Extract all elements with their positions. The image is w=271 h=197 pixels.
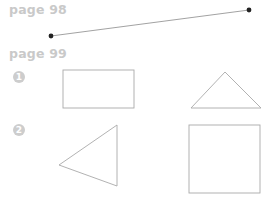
segment-endpoint-dot bbox=[247, 8, 252, 13]
triangle-left-figure bbox=[59, 125, 117, 186]
square-figure bbox=[189, 125, 260, 193]
triangle-up-figure bbox=[191, 72, 261, 108]
rectangle-figure bbox=[63, 70, 134, 108]
line-segment-figure bbox=[49, 8, 252, 39]
figures-canvas bbox=[0, 0, 271, 197]
segment-endpoint-dot bbox=[49, 34, 54, 39]
